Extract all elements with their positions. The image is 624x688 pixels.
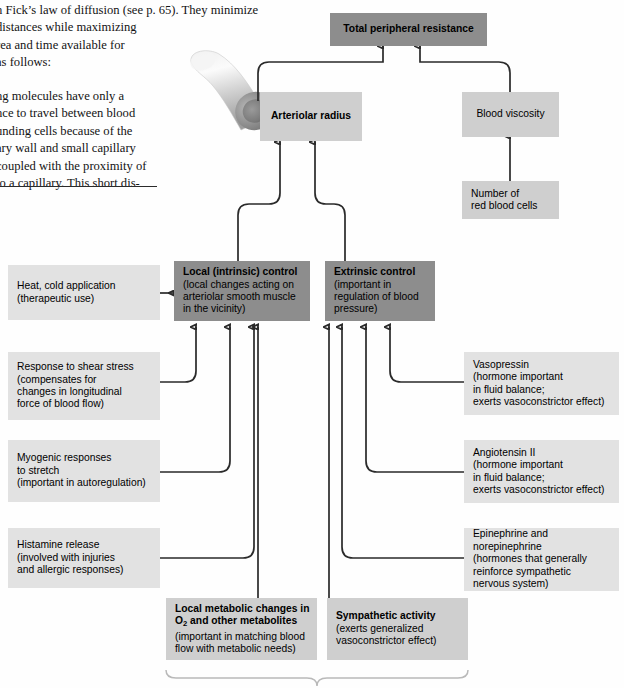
box-title: Local metabolic changes in bbox=[175, 603, 309, 614]
body-line: coupled with the proximity of bbox=[0, 158, 186, 175]
box-title: Sympathetic activity bbox=[336, 610, 436, 621]
box-line: to stretch bbox=[17, 465, 154, 477]
body-line: unding cells because of the bbox=[0, 123, 186, 140]
box-title-o2: O bbox=[175, 615, 183, 626]
box-line: (compensates for bbox=[17, 374, 154, 386]
box-local-intrinsic-control[interactable]: Local (intrinsic) control (local changes… bbox=[174, 261, 310, 321]
body-line: nce to travel between blood bbox=[0, 105, 186, 122]
box-line: changes in longitudinal bbox=[17, 386, 154, 398]
box-line: in fluid balance; bbox=[473, 472, 613, 484]
box-number-red-blood-cells[interactable]: Number of red blood cells bbox=[462, 181, 559, 219]
box-line: nervous system) bbox=[473, 578, 613, 590]
box-myogenic-responses[interactable]: Myogenic responses to stretch (important… bbox=[8, 440, 160, 502]
box-line: Number of bbox=[471, 188, 553, 200]
box-sympathetic-activity[interactable]: Sympathetic activity (exerts generalized… bbox=[327, 598, 468, 660]
body-line: ng molecules have only a bbox=[0, 88, 186, 105]
box-line: Myogenic responses bbox=[17, 452, 154, 464]
box-line: force of blood flow) bbox=[17, 398, 154, 410]
textbook-page: n Fick’s law of diffusion (see p. 65). T… bbox=[0, 0, 624, 688]
box-line: Heat, cold application bbox=[17, 280, 154, 292]
horizontal-divider bbox=[0, 186, 157, 187]
box-heat-cold-application[interactable]: Heat, cold application (therapeutic use) bbox=[8, 265, 160, 320]
box-total-peripheral-resistance[interactable]: Total peripheral resistance bbox=[330, 13, 487, 46]
box-line: Response to shear stress bbox=[17, 361, 154, 373]
box-line: (hormones that generally bbox=[473, 553, 613, 565]
box-line: (hormone important bbox=[473, 371, 613, 383]
box-arteriolar-radius[interactable]: Arteriolar radius bbox=[260, 92, 362, 141]
box-line: Angiotensin II bbox=[473, 447, 613, 459]
box-line: Epinephrine and norepinephrine bbox=[473, 528, 613, 553]
body-paragraph-2: ng molecules have only a nce to travel b… bbox=[0, 88, 186, 192]
box-extrinsic-control[interactable]: Extrinsic control (important in regulati… bbox=[325, 261, 435, 321]
body-line: n Fick’s law of diffusion (see p. 65). T… bbox=[0, 2, 326, 19]
box-line: (involved with injuries bbox=[17, 552, 154, 564]
box-line: (local changes acting on bbox=[183, 279, 304, 291]
box-blood-viscosity[interactable]: Blood viscosity bbox=[462, 92, 559, 137]
box-line: regulation of blood bbox=[334, 291, 429, 303]
box-line: Histamine release bbox=[17, 539, 154, 551]
box-line: exerts vasoconstrictor effect) bbox=[473, 396, 613, 408]
box-title-rest: and other metabolites bbox=[187, 615, 297, 626]
box-title: Blood viscosity bbox=[476, 108, 544, 120]
box-angiotensin-ii[interactable]: Angiotensin II (hormone important in flu… bbox=[464, 440, 619, 503]
box-epinephrine-norepinephrine[interactable]: Epinephrine and norepinephrine (hormones… bbox=[464, 528, 619, 591]
box-line: (hormone important bbox=[473, 459, 613, 471]
box-title: Arteriolar radius bbox=[271, 110, 351, 121]
box-histamine-release[interactable]: Histamine release (involved with injurie… bbox=[8, 528, 160, 588]
box-line: in fluid balance; bbox=[473, 384, 613, 396]
box-line: red blood cells bbox=[471, 200, 553, 212]
box-line: exerts vasoconstrictor effect) bbox=[473, 484, 613, 496]
box-line: (important in autoregulation) bbox=[17, 477, 154, 489]
box-line: arteriolar smooth muscle bbox=[183, 291, 304, 303]
box-line: (important in bbox=[334, 279, 429, 291]
body-line: to a capillary. This short dis- bbox=[0, 175, 186, 192]
box-title: Total peripheral resistance bbox=[343, 23, 473, 34]
box-line: (important in matching blood bbox=[175, 631, 311, 643]
box-line: Vasopressin bbox=[473, 359, 613, 371]
box-line: reinforce sympathetic bbox=[473, 566, 613, 578]
box-line: pressure) bbox=[334, 303, 429, 315]
box-line: in the vicinity) bbox=[183, 303, 304, 315]
box-local-metabolic-changes[interactable]: Local metabolic changes in O2 and other … bbox=[166, 598, 317, 660]
box-title: Extrinsic control bbox=[334, 266, 415, 277]
body-line: distances while maximizing bbox=[0, 19, 326, 36]
box-title: Local (intrinsic) control bbox=[183, 266, 297, 277]
box-line: flow with metabolic needs) bbox=[175, 643, 311, 655]
body-line: ary wall and small capillary bbox=[0, 140, 186, 157]
box-response-to-shear-stress[interactable]: Response to shear stress (compensates fo… bbox=[8, 352, 160, 420]
box-line: vasoconstrictor effect) bbox=[336, 635, 462, 647]
box-vasopressin[interactable]: Vasopressin (hormone important in fluid … bbox=[464, 352, 619, 415]
box-line: and allergic responses) bbox=[17, 564, 154, 576]
box-line: (therapeutic use) bbox=[17, 293, 154, 305]
box-line: (exerts generalized bbox=[336, 623, 462, 635]
